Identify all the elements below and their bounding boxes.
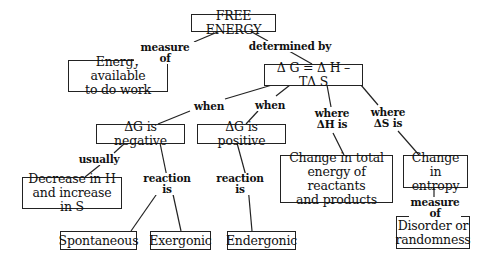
node-change-total-energy: Change in total energy of reactants and … [280,155,393,203]
label-where-dh: where ΔH is [314,108,350,130]
node-dg-positive: ΔG is positive [197,124,286,144]
node-disorder-randomness: Disorder or randomness [396,216,470,249]
node-change-entropy: Change in entropy [403,155,468,188]
label-when-2: when [254,100,286,111]
node-dg-negative: ΔG is negative [96,124,185,144]
node-free-energy: FREE ENERGY [191,14,276,32]
node-exergonic: Exergonic [150,231,211,250]
label-measure-of-1: measure of [134,42,196,64]
concept-map: FREE ENERGY Energy available to do work … [0,0,492,262]
node-equation: Δ G = Δ H – TΔ S [264,64,363,86]
label-when-1: when [193,101,225,112]
label-measure-of-2: measure of [409,197,461,219]
node-spontaneous: Spontaneous [60,231,137,250]
node-endergonic: Endergonic [227,231,296,250]
label-usually: usually [78,154,120,165]
label-determined-by: determined by [248,41,332,52]
node-decrease-h-increase-s: Decrease in H and increase in S [22,177,122,209]
node-energy-available: Energy available to do work [68,60,168,92]
label-reaction-is-2: reaction is [214,173,266,195]
label-where-ds: where ΔS is [370,107,406,129]
label-reaction-is-1: reaction is [141,173,193,195]
